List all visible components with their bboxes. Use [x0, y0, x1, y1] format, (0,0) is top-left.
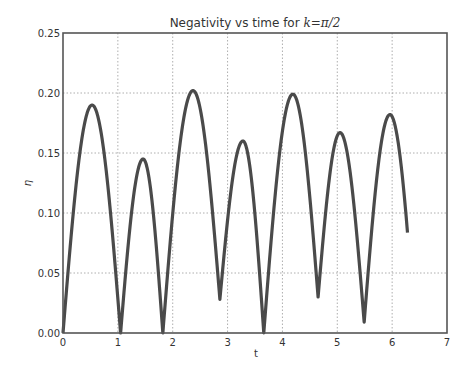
y-tick-label: 0.25: [38, 28, 60, 39]
x-tick-label: 3: [224, 337, 230, 348]
x-axis-ticks: 01234567: [60, 337, 450, 348]
x-tick-label: 0: [60, 337, 66, 348]
y-tick-label: 0.00: [38, 328, 60, 339]
x-tick-label: 2: [170, 337, 176, 348]
y-tick-label: 0.10: [38, 208, 60, 219]
x-tick-label: 4: [279, 337, 285, 348]
y-tick-label: 0.20: [38, 88, 60, 99]
y-tick-label: 0.05: [38, 268, 60, 279]
x-tick-label: 1: [115, 337, 121, 348]
y-axis-ticks: 0.000.050.100.150.200.25: [38, 28, 60, 339]
x-tick-label: 7: [444, 337, 450, 348]
grid-lines: [63, 33, 447, 333]
negativity-chart: 01234567 0.000.050.100.150.200.25 Negati…: [0, 0, 474, 371]
negativity-curve: [63, 91, 408, 333]
x-tick-label: 5: [334, 337, 340, 348]
x-tick-label: 6: [389, 337, 395, 348]
x-axis-label: t: [254, 348, 258, 359]
y-axis-label: η: [22, 180, 33, 186]
chart-title: Negativity vs time for k=π/2: [170, 16, 341, 30]
y-tick-label: 0.15: [38, 148, 60, 159]
plot-frame: [63, 33, 447, 333]
